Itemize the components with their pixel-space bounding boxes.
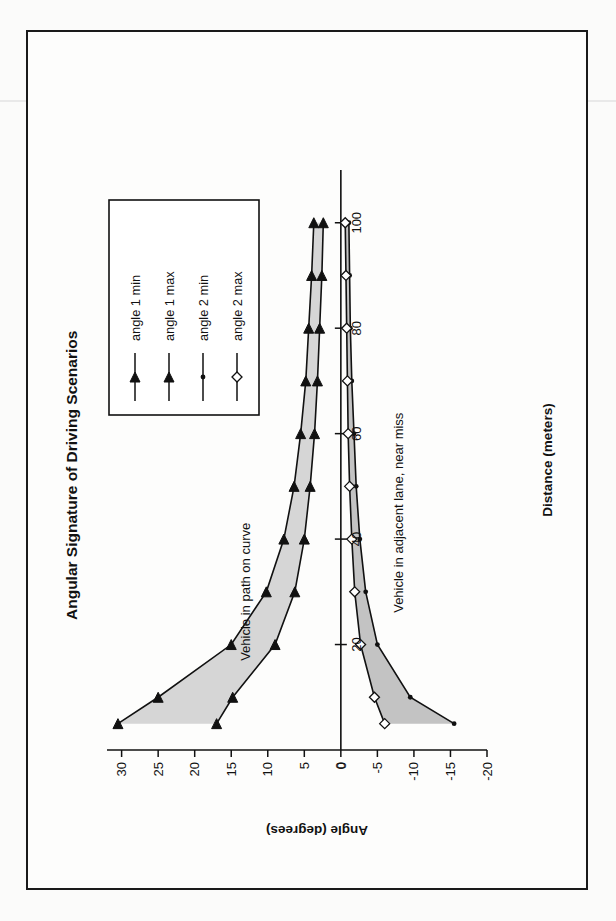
- y-tick-label: 15: [224, 762, 239, 776]
- legend-item: angle 1 max: [162, 271, 177, 401]
- marker-dot-small: [452, 721, 457, 726]
- x-axis-label: Distance (meters): [540, 403, 555, 516]
- plot-annotation: Vehicle in path on curve: [238, 523, 253, 661]
- legend-label: angle 1 min: [128, 275, 143, 341]
- chart-title: Angular Signature of Driving Scenarios: [63, 331, 80, 620]
- y-tick-label: -20: [480, 762, 495, 781]
- y-tick-label: 5: [297, 762, 312, 769]
- document-page-frame: Angular Signature of Driving Scenarios A…: [26, 30, 588, 890]
- y-tick-label: 30: [114, 762, 129, 776]
- plot-annotation: Vehicle in adjacent lane, near miss: [391, 412, 406, 613]
- legend-item: angle 1 min: [128, 275, 143, 401]
- legend-label: angle 2 min: [196, 275, 211, 341]
- x-tick-label: 0: [334, 762, 349, 769]
- x-tick-label: 80: [349, 321, 364, 335]
- x-tick-label: 60: [349, 426, 364, 440]
- marker-dot-small: [375, 642, 380, 647]
- rotated-chart-container: Angular Signature of Driving Scenarios A…: [47, 50, 567, 870]
- y-tick-label: 20: [187, 762, 202, 776]
- chart-legend: angle 1 minangle 1 maxangle 2 minangle 2…: [109, 200, 259, 415]
- y-tick-label: 10: [260, 762, 275, 776]
- y-tick-label: -5: [370, 762, 385, 774]
- marker-dot-small: [408, 695, 413, 700]
- marker-dot-small: [363, 589, 368, 594]
- x-tick-label: 40: [349, 532, 364, 546]
- y-tick-label: -15: [443, 762, 458, 781]
- legend-label: angle 2 max: [230, 271, 245, 341]
- marker-dot-small: [201, 375, 206, 380]
- chart-canvas: Angular Signature of Driving Scenarios A…: [47, 50, 567, 870]
- y-tick-label: 25: [151, 762, 166, 776]
- x-tick-label: 20: [349, 637, 364, 651]
- y-axis-label: Angle (degrees): [266, 823, 368, 838]
- chart-svg: Angular Signature of Driving Scenarios A…: [47, 50, 567, 870]
- legend-label: angle 1 max: [162, 271, 177, 341]
- x-tick-label: 100: [349, 212, 364, 234]
- y-tick-label: -10: [406, 762, 421, 781]
